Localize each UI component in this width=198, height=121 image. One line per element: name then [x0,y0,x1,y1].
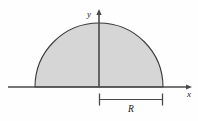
y-axis-label: y [86,9,91,19]
figure-container: y x R [0,0,198,121]
y-axis-arrow-icon [96,9,101,15]
radius-label: R [127,104,134,114]
semicircle-figure: y x R [0,0,198,121]
x-axis-label: x [186,89,191,99]
